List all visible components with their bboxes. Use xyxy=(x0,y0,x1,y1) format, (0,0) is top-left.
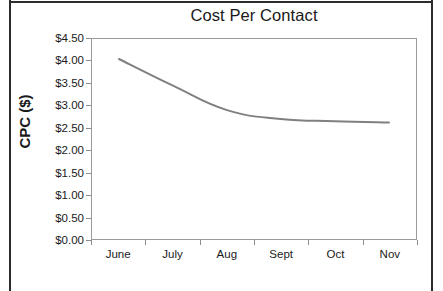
x-axis-tick xyxy=(363,240,364,245)
y-axis-label: $3.00 xyxy=(36,99,84,111)
chart-title: Cost Per Contact xyxy=(91,6,417,25)
x-axis-tick xyxy=(91,240,92,245)
y-axis-label: $4.50 xyxy=(36,32,84,44)
y-axis-label: $2.00 xyxy=(36,144,84,156)
plot-area xyxy=(91,38,417,240)
data-line-svg xyxy=(92,39,416,239)
y-axis-label: $0.50 xyxy=(36,212,84,224)
x-axis-tick xyxy=(200,240,201,245)
x-axis-label: Aug xyxy=(217,248,237,260)
page-border-right xyxy=(431,0,433,291)
y-axis-title: CPC ($) xyxy=(16,72,33,172)
y-axis-tick-labels: $0.00$0.50$1.00$1.50$2.00$2.50$3.00$3.50… xyxy=(36,38,84,240)
x-axis-tick xyxy=(417,240,418,245)
y-axis-label: $2.50 xyxy=(36,122,84,134)
y-axis-label: $0.00 xyxy=(36,234,84,246)
y-axis-label: $1.00 xyxy=(36,189,84,201)
y-axis-label: $4.00 xyxy=(36,54,84,66)
x-axis-label: Sept xyxy=(269,248,293,260)
x-axis-label: June xyxy=(106,248,131,260)
y-axis-label: $3.50 xyxy=(36,77,84,89)
x-axis-tick xyxy=(145,240,146,245)
data-series-line xyxy=(119,59,389,123)
x-axis-label: Oct xyxy=(327,248,345,260)
page-border-left xyxy=(9,0,11,291)
x-axis-tick xyxy=(308,240,309,245)
chart-screenshot: Cost Per Contact CPC ($) $0.00$0.50$1.00… xyxy=(0,0,443,291)
x-axis-label: Nov xyxy=(380,248,400,260)
x-axis-tick xyxy=(254,240,255,245)
x-axis-label: July xyxy=(162,248,182,260)
page-border-top xyxy=(9,1,433,3)
y-axis-label: $1.50 xyxy=(36,167,84,179)
